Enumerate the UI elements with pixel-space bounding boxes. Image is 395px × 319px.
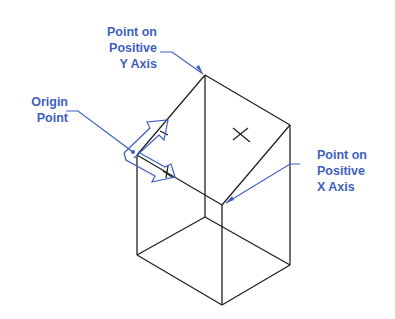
x-axis-label-line: Point on xyxy=(317,147,395,163)
origin-label-line: Point xyxy=(20,110,68,126)
x-axis-label-line: X Axis xyxy=(317,179,395,195)
y-axis-label-line: Y Axis xyxy=(95,56,157,72)
plus-mark xyxy=(233,128,250,142)
x-axis-label-line: Positive xyxy=(317,163,395,179)
x-axis-label: Point on Positive X Axis xyxy=(317,147,395,195)
y-axis-label-line: Positive xyxy=(95,40,157,56)
origin-label-line: Origin xyxy=(20,94,68,110)
origin-dot xyxy=(131,150,135,154)
y-axis-label-line: Point on xyxy=(95,24,157,40)
axis-arrows xyxy=(66,52,300,203)
origin-label: Origin Point xyxy=(20,94,68,126)
box-edges xyxy=(137,75,290,305)
y-axis-label: Point on Positive Y Axis xyxy=(95,24,157,72)
